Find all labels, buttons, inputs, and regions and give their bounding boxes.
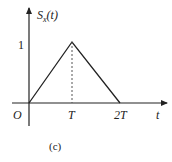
x-axis-label: t <box>156 108 160 122</box>
triangle-curve <box>29 42 120 103</box>
triangle-pulse-diagram: Sx(t) 1 O T 2T t (c) <box>0 0 172 162</box>
x-tick-label-2T: 2T <box>114 108 128 122</box>
y-tick-label-1: 1 <box>18 38 24 52</box>
origin-label: O <box>13 108 22 122</box>
function-label: Sx(t) <box>37 8 58 24</box>
x-tick-label-T: T <box>68 108 76 122</box>
figure-caption: (c) <box>49 140 62 153</box>
